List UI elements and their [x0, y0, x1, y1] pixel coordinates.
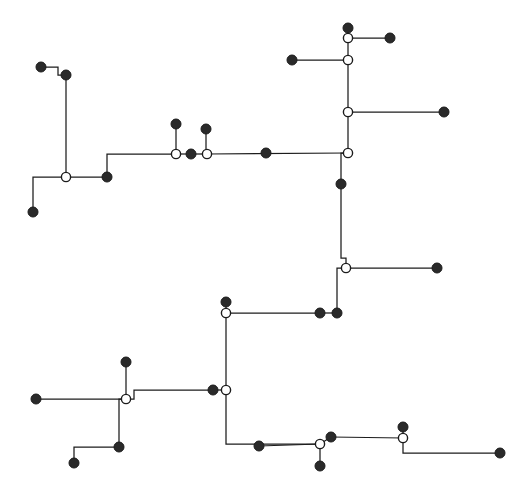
terminal-node [326, 432, 336, 442]
terminal-node [385, 33, 395, 43]
terminal-node [102, 172, 112, 182]
terminal-node [36, 62, 46, 72]
terminal-node [495, 448, 505, 458]
junction-node [398, 433, 407, 442]
terminal-node [114, 442, 124, 452]
junction-node [343, 107, 352, 116]
terminal-node [31, 394, 41, 404]
terminal-node [398, 422, 408, 432]
terminal-node [208, 385, 218, 395]
junction-node [61, 172, 70, 181]
terminal-node [439, 107, 449, 117]
terminal-node [343, 23, 353, 33]
terminal-node [287, 55, 297, 65]
terminal-node [315, 308, 325, 318]
network-diagram-canvas [0, 0, 514, 497]
junction-node [315, 439, 324, 448]
junction-node [171, 149, 180, 158]
junction-node [343, 55, 352, 64]
terminal-node [171, 119, 181, 129]
terminal-node [201, 124, 211, 134]
terminal-node [315, 461, 325, 471]
terminal-node [121, 357, 131, 367]
terminal-node [332, 308, 342, 318]
terminal-node [336, 179, 346, 189]
junction-node [202, 149, 211, 158]
terminal-node [261, 148, 271, 158]
junction-node [121, 394, 130, 403]
terminal-node [432, 263, 442, 273]
junction-node [221, 385, 230, 394]
junction-node [341, 263, 350, 272]
junction-node [343, 33, 352, 42]
terminal-node [254, 441, 264, 451]
terminal-node [28, 207, 38, 217]
terminal-node [221, 297, 231, 307]
terminal-node [61, 70, 71, 80]
diagram-background [0, 0, 514, 497]
junction-node [343, 148, 352, 157]
terminal-node [186, 149, 196, 159]
terminal-node [69, 458, 79, 468]
junction-node [221, 308, 230, 317]
network-diagram-svg [0, 0, 514, 497]
